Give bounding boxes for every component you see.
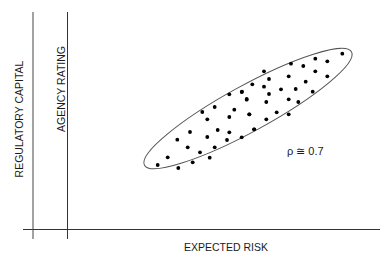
correlation-label: ρ ≅ 0.7 [287, 145, 324, 158]
data-point [264, 100, 268, 104]
data-point [267, 92, 271, 96]
data-point [262, 85, 266, 89]
data-point [250, 82, 254, 86]
data-point [311, 90, 315, 94]
data-point [213, 105, 217, 109]
data-point [264, 117, 268, 121]
x-axis-label-expected-risk: EXPECTED RISK [184, 241, 264, 253]
data-point [205, 117, 209, 121]
data-point [301, 64, 305, 68]
data-point [267, 77, 271, 81]
data-point [191, 160, 195, 164]
data-point [205, 135, 209, 139]
data-point [287, 97, 291, 101]
data-point [175, 138, 179, 142]
data-point [289, 62, 293, 66]
data-point [294, 87, 298, 91]
data-point [325, 74, 329, 78]
data-point [340, 52, 344, 56]
risk-diagram: REGULATORY CAPITAL AGENCY RATING ρ ≅ 0.7… [0, 0, 390, 260]
data-point [245, 97, 249, 101]
data-point [313, 69, 317, 73]
data-point [227, 130, 231, 134]
data-point [296, 100, 300, 104]
data-point [279, 87, 283, 91]
data-point [247, 112, 251, 116]
data-point [227, 92, 231, 96]
data-point [252, 127, 256, 131]
data-point [186, 145, 190, 149]
data-point [325, 59, 329, 63]
data-point [176, 166, 180, 170]
data-point [200, 110, 204, 114]
data-point [216, 128, 220, 132]
data-point [262, 69, 266, 73]
data-point [225, 138, 229, 142]
data-point [227, 115, 231, 119]
data-point [208, 156, 212, 160]
data-point [275, 110, 279, 114]
data-point [166, 155, 170, 159]
data-point [287, 112, 291, 116]
data-point [240, 135, 244, 139]
data-point [188, 130, 192, 134]
data-point [240, 90, 244, 94]
data-point [232, 108, 236, 112]
data-point [156, 163, 160, 167]
data-point [287, 74, 291, 78]
y-axis-label-regulatory-capital: REGULATORY CAPITAL [13, 59, 25, 179]
cluster-ellipse [133, 32, 362, 186]
data-point [313, 57, 317, 61]
data-point [304, 80, 308, 84]
y-axis-label-agency-rating: AGENCY RATING [55, 29, 67, 149]
data-point [213, 145, 217, 149]
data-point [198, 150, 202, 154]
